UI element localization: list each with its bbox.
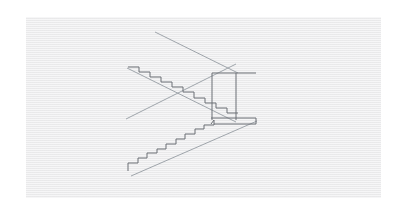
screenshot-root [0, 0, 407, 215]
drawing-panel [26, 17, 381, 198]
panel-scanline-texture [26, 17, 381, 198]
